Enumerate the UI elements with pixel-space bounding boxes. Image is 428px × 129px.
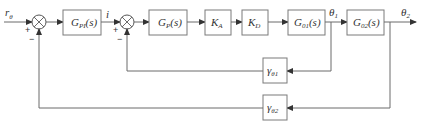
theta1-label: θ1 xyxy=(329,6,338,20)
block-kd: KD xyxy=(242,10,268,35)
summing-junction-1: + − xyxy=(25,15,46,44)
minus-sign: − xyxy=(29,34,34,44)
input-signal: rθ xyxy=(4,6,32,22)
theta2-label: θ2 xyxy=(401,6,410,20)
summing-junction-2: + − xyxy=(113,15,134,44)
block-g02: G02(s) xyxy=(347,10,384,35)
signal-i-label: i xyxy=(106,8,109,20)
block-diagram: rθ + − GPI(s) i + − GP(s) KA KD xyxy=(0,0,428,129)
input-label: rθ xyxy=(5,6,13,21)
block-gp: GP(s) xyxy=(149,10,187,35)
block-gpi: GPI(s) xyxy=(63,10,101,35)
minus-sign: − xyxy=(117,34,122,44)
block-ka: KA xyxy=(205,10,231,35)
svg-text:GP(s): GP(s) xyxy=(158,16,182,30)
block-g01: G01(s) xyxy=(288,10,325,35)
